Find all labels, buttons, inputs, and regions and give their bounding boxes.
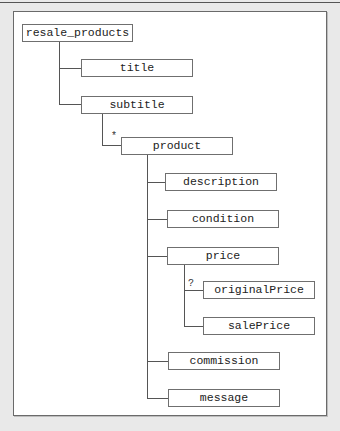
node-message: message <box>168 389 280 407</box>
connector-subtitle-vertical <box>102 113 103 146</box>
connector-subtitle <box>59 104 81 105</box>
node-price: price <box>167 247 279 265</box>
connector-originalprice <box>184 290 203 291</box>
cardinality-star-marker: * <box>111 132 117 142</box>
node-subtitle: subtitle <box>81 96 193 114</box>
node-product: product <box>121 137 233 155</box>
connector-title <box>59 68 81 69</box>
connector-root-vertical <box>59 41 60 105</box>
top-edge-line <box>0 2 340 3</box>
node-sale-price: salePrice <box>203 317 315 335</box>
connector-saleprice <box>184 326 203 327</box>
node-original-price: originalPrice <box>203 281 315 299</box>
connector-price <box>147 256 167 257</box>
node-condition: condition <box>167 210 279 228</box>
cardinality-optional-marker: ? <box>188 279 194 289</box>
node-title: title <box>81 59 193 77</box>
node-commission: commission <box>168 352 280 370</box>
connector-price-vertical <box>184 265 185 327</box>
connector-message <box>147 398 168 399</box>
connector-product <box>102 145 121 146</box>
connector-condition <box>147 219 167 220</box>
node-resale-products: resale_products <box>22 24 133 42</box>
connector-description <box>147 182 165 183</box>
node-description: description <box>165 173 277 191</box>
connector-commission <box>147 361 168 362</box>
